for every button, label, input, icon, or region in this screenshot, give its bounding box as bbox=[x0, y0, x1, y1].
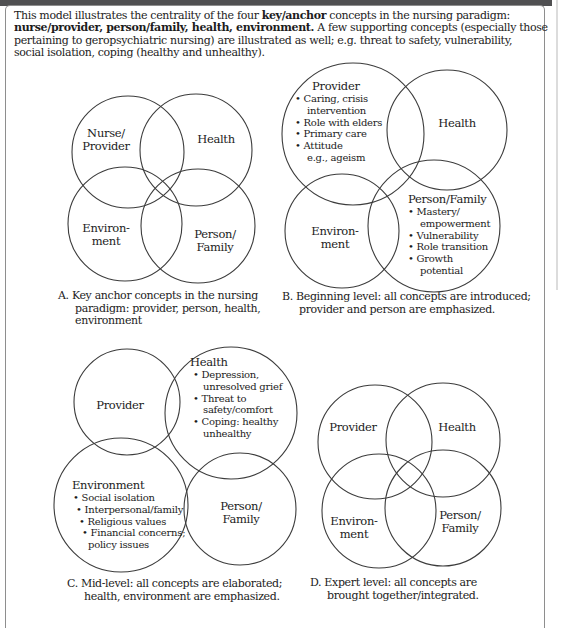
bullet-item: • Depression, bbox=[193, 369, 282, 381]
bullet-item: • Growth bbox=[408, 253, 490, 265]
intro-text: A few supporting concepts (especially th… bbox=[314, 21, 548, 34]
caption-a: A. Key anchor concepts in the nursing pa… bbox=[58, 290, 260, 328]
label-person-family: Person/Family bbox=[408, 193, 490, 206]
label-environment: Environment bbox=[72, 479, 185, 492]
label-line: Environ- bbox=[330, 515, 377, 528]
person-family-concepts-block: Person/Family • Mastery/ empowerment • V… bbox=[408, 193, 490, 277]
intro-bold-concepts: nurse/provider, person/family, health, e… bbox=[14, 21, 314, 34]
bullet-item: intervention bbox=[307, 105, 382, 117]
bullet-item: e.g., ageism bbox=[307, 152, 382, 164]
caption-line: brought together/integrated. bbox=[327, 590, 479, 603]
caption-line: health, environment are emphasized. bbox=[84, 591, 282, 604]
label-line: Person/ bbox=[194, 228, 236, 241]
intro-bold-key-anchor: key/anchor bbox=[262, 9, 326, 22]
bullet-item: • Role transition bbox=[408, 241, 490, 253]
health-concepts-block: Health • Depression, unresolved grief • … bbox=[190, 356, 282, 440]
intro-paragraph: This model illustrates the centrality of… bbox=[14, 10, 544, 59]
circle-health bbox=[387, 70, 507, 190]
bullet-item: • Caring, crisis bbox=[295, 93, 382, 105]
bullet-item: • Threat to bbox=[193, 393, 282, 405]
label-person-family: Person/ Family bbox=[439, 509, 481, 534]
circle-environment bbox=[322, 454, 436, 568]
label-line: Environ- bbox=[82, 222, 129, 235]
label-health: Health bbox=[438, 117, 476, 130]
caption-line: D. Expert level: all concepts are bbox=[310, 577, 479, 590]
label-line: ment bbox=[311, 238, 358, 251]
caption-line: provider and person are emphasized. bbox=[299, 304, 531, 317]
label-environment: Environ- ment bbox=[311, 225, 358, 250]
bullet-item: • Primary care bbox=[295, 128, 382, 140]
label-line: Person/ bbox=[220, 500, 262, 513]
intro-line-2: nurse/provider, person/family, health, e… bbox=[14, 22, 544, 34]
bullet-item: • Religious values bbox=[79, 516, 185, 528]
intro-text: This model illustrates the centrality of… bbox=[14, 9, 262, 22]
label-health: Health bbox=[438, 421, 476, 434]
bullet-item: unhealthy bbox=[203, 428, 282, 440]
circle-person-family bbox=[141, 169, 255, 283]
caption-line: A. Key anchor concepts in the nursing bbox=[58, 290, 260, 303]
label-environment: Environ- ment bbox=[330, 515, 377, 540]
label-environment: Environ- ment bbox=[82, 222, 129, 247]
label-provider: Provider bbox=[96, 399, 144, 412]
label-line: Family bbox=[439, 522, 481, 535]
circle-provider bbox=[318, 385, 432, 499]
caption-line: B. Beginning level: all concepts are int… bbox=[282, 291, 531, 304]
bullet-item: • Financial concerns; bbox=[82, 527, 185, 539]
bullet-item: • Social isolation bbox=[73, 492, 185, 504]
caption-c: C. Mid-level: all concepts are elaborate… bbox=[67, 578, 282, 603]
circle-health bbox=[140, 94, 252, 206]
panel-a-venn bbox=[40, 88, 260, 288]
label-health: Health bbox=[190, 356, 282, 369]
intro-line-4: social isolation, coping (healthy and un… bbox=[14, 47, 544, 59]
page-edge-line bbox=[556, 0, 558, 290]
label-health: Health bbox=[197, 133, 235, 146]
bullet-item: • Coping: healthy bbox=[193, 416, 282, 428]
label-person-family: Person/ Family bbox=[220, 500, 262, 525]
caption-line: environment bbox=[75, 315, 260, 328]
provider-concepts-block: Provider • Caring, crisis intervention •… bbox=[295, 80, 382, 164]
label-line: Provider bbox=[82, 140, 130, 153]
bullet-item: • Role with elders bbox=[295, 117, 382, 129]
bullet-item: potential bbox=[420, 265, 490, 277]
label-line: Person/ bbox=[439, 509, 481, 522]
panel-d-venn bbox=[310, 378, 510, 578]
figure-page: This model illustrates the centrality of… bbox=[0, 0, 566, 628]
label-provider: Provider bbox=[312, 80, 382, 93]
label-person-family: Person/ Family bbox=[194, 228, 236, 253]
bullet-item: • Vulnerability bbox=[408, 230, 490, 242]
label-line: Nurse/ bbox=[82, 127, 130, 140]
intro-text: concepts in the nursing paradigm: bbox=[326, 9, 510, 22]
label-provider: Provider bbox=[329, 421, 377, 434]
caption-line: C. Mid-level: all concepts are elaborate… bbox=[67, 578, 282, 591]
label-line: Family bbox=[194, 241, 236, 254]
label-line: ment bbox=[82, 235, 129, 248]
environment-concepts-block: Environment • Social isolation • Interpe… bbox=[72, 479, 185, 551]
caption-b: B. Beginning level: all concepts are int… bbox=[282, 291, 531, 316]
bullet-item: • Mastery/ bbox=[408, 206, 490, 218]
bullet-item: policy issues bbox=[88, 539, 185, 551]
label-line: Family bbox=[220, 513, 262, 526]
bullet-item: • Interpersonal/family bbox=[76, 504, 185, 516]
label-nurse-provider: Nurse/ Provider bbox=[82, 127, 130, 152]
label-line: ment bbox=[330, 528, 377, 541]
label-line: Environ- bbox=[311, 225, 358, 238]
bullet-item: empowerment bbox=[420, 218, 490, 230]
bullet-item: • Attitude bbox=[295, 140, 382, 152]
bullet-item: safety/comfort bbox=[203, 404, 282, 416]
caption-d: D. Expert level: all concepts are brough… bbox=[310, 577, 479, 602]
bullet-item: unresolved grief bbox=[203, 381, 282, 393]
circle-health bbox=[386, 383, 500, 497]
